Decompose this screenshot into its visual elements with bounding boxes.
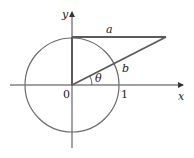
angle-arc bbox=[90, 76, 92, 85]
theta-label: θ bbox=[95, 72, 102, 85]
side-b-label: b bbox=[122, 62, 129, 75]
unit-circle-figure: y x 0 1 a b θ bbox=[0, 0, 194, 158]
origin-label: 0 bbox=[63, 88, 70, 101]
diagram: y x 0 1 a b θ bbox=[0, 0, 194, 158]
y-axis-label: y bbox=[61, 8, 69, 21]
side-a-label: a bbox=[106, 23, 113, 36]
one-tick-label: 1 bbox=[121, 88, 128, 101]
x-axis-label: x bbox=[178, 90, 185, 103]
